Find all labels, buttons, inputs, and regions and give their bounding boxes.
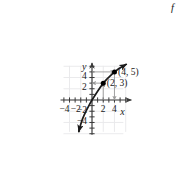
graph-figure: −4−224−4−224xy(4, 5)(2, 3)f xyxy=(0,0,196,185)
data-point-2 xyxy=(112,69,117,74)
point-label-4-5: (4, 5) xyxy=(118,68,139,78)
graph-canvas xyxy=(0,0,196,185)
x-tick-label-−4: −4 xyxy=(60,105,70,115)
function-name-label: f xyxy=(171,3,174,14)
y-tick-label-4: 4 xyxy=(82,72,87,82)
y-tick-label-−2: −2 xyxy=(77,106,87,116)
function-curve-lower-arrow xyxy=(79,128,80,131)
point-label-2-3: (2, 3) xyxy=(107,79,128,89)
y-tick-label-2: 2 xyxy=(82,83,87,93)
x-axis-label: x xyxy=(120,107,124,117)
x-tick-label-4: 4 xyxy=(112,105,117,115)
y-axis-label: y xyxy=(82,62,86,72)
x-tick-label-2: 2 xyxy=(101,105,106,115)
y-tick-label-−4: −4 xyxy=(77,117,87,127)
data-point-1 xyxy=(101,81,106,86)
